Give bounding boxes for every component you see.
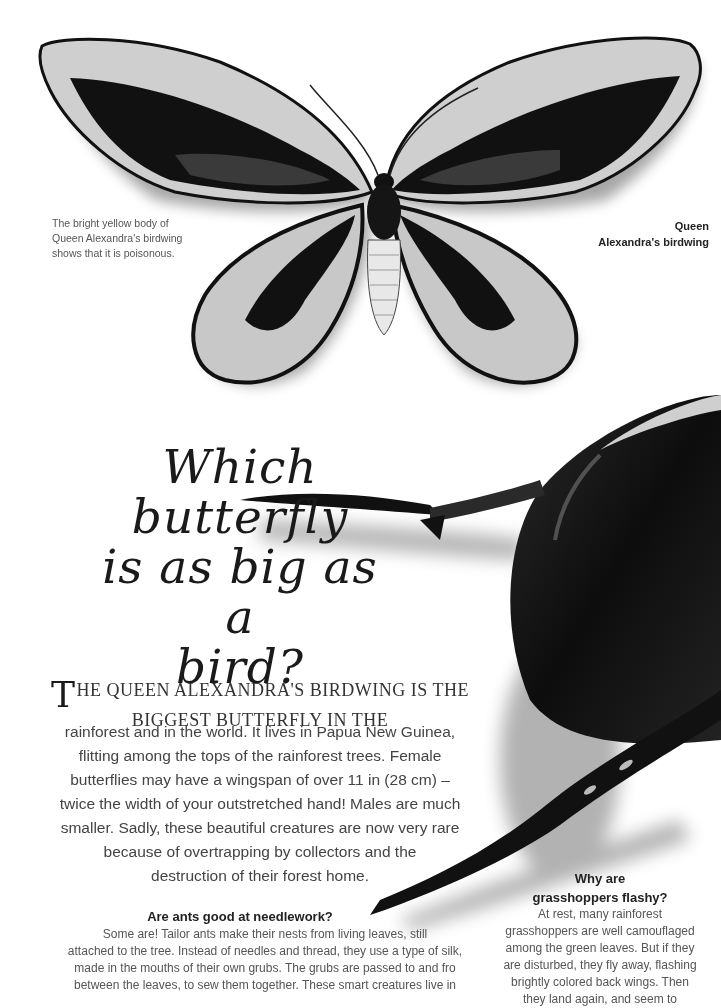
ants-sidebar-text: Some are! Tailor ants make their nests f… xyxy=(30,926,500,994)
body-line: flitting among the tops of the rainfores… xyxy=(40,744,480,768)
title-line: butterfly xyxy=(80,492,400,542)
body-line: twice the width of your outstretched han… xyxy=(40,792,480,816)
grasshopper-line: they land again, and seem to xyxy=(490,991,710,1008)
grasshoppers-sidebar-text: At rest, many rainforest grasshoppers ar… xyxy=(490,906,710,1008)
title-line: is as big as a xyxy=(80,542,400,642)
ants-line: between the leaves, to sew them together… xyxy=(30,977,500,994)
butterfly-illustration xyxy=(0,0,721,400)
drop-cap: T xyxy=(51,674,76,715)
heading-line: grasshoppers flashy? xyxy=(490,888,710,907)
body-line: butterflies may have a wingspan of over … xyxy=(40,768,480,792)
body-line: destruction of their forest home. xyxy=(40,864,480,888)
title-line: Which xyxy=(80,442,400,492)
butterfly-label-line1: Queen xyxy=(509,218,709,234)
ants-line: Some are! Tailor ants make their nests f… xyxy=(30,926,500,943)
main-body-text: rainforest and in the world. It lives in… xyxy=(40,720,480,888)
ants-sidebar-heading: Are ants good at needlework? xyxy=(30,909,450,924)
body-line: rainforest and in the world. It lives in… xyxy=(40,720,480,744)
butterfly-label-line2: Alexandra's birdwing xyxy=(509,234,709,250)
grasshopper-line: brightly colored back wings. Then xyxy=(490,974,710,991)
page-title: Which butterfly is as big as a bird? xyxy=(80,442,400,692)
butterfly-poison-caption: The bright yellow body of Queen Alexandr… xyxy=(52,216,202,261)
lead-line: HE QUEEN ALEXANDRA'S BIRDWING IS THE xyxy=(77,680,469,700)
ants-line: made in the mouths of their own grubs. T… xyxy=(30,960,500,977)
heading-line: Why are xyxy=(490,869,710,888)
butterfly-label: Queen Alexandra's birdwing xyxy=(509,218,709,250)
grasshopper-line: grasshoppers are well camouflaged xyxy=(490,923,710,940)
body-line: because of overtrapping by collectors an… xyxy=(40,840,480,864)
body-line: smaller. Sadly, these beautiful creature… xyxy=(40,816,480,840)
grasshoppers-sidebar-heading: Why are grasshoppers flashy? xyxy=(490,869,710,907)
ants-line: attached to the tree. Instead of needles… xyxy=(30,943,500,960)
grasshopper-line: among the green leaves. But if they xyxy=(490,940,710,957)
grasshopper-line: are disturbed, they fly away, flashing xyxy=(490,957,710,974)
grasshopper-line: At rest, many rainforest xyxy=(490,906,710,923)
